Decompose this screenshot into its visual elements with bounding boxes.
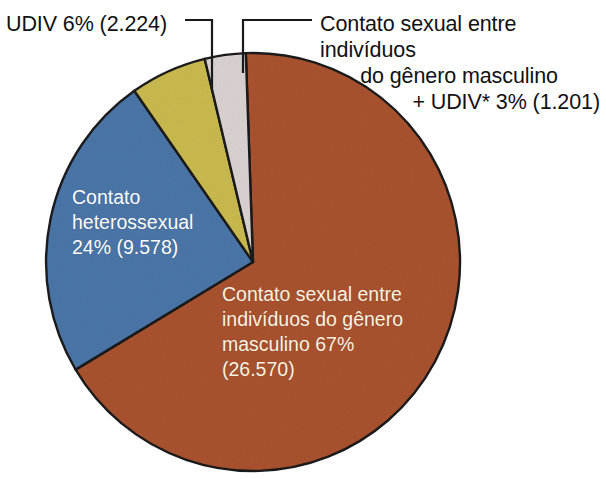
callout-label-msm-udiv: Contato sexual entre indivíduos do gêner… <box>320 11 604 115</box>
callout-label-msm-udiv-line1: Contato sexual entre indivíduos <box>320 11 604 63</box>
callout-label-msm-udiv-line3: + UDIV* 3% (1.201) <box>320 89 604 115</box>
slice-label-contato-heterossexual: Contato heterossexual 24% (9.578) <box>72 185 242 260</box>
callout-label-udiv: UDIV 6% (2.224) <box>6 11 167 37</box>
callout-label-msm-udiv-line2: do gênero masculino <box>320 63 604 89</box>
pie-chart-figure: UDIV 6% (2.224) Contato sexual entre ind… <box>0 0 606 479</box>
slice-label-contato-sexual-masculino: Contato sexual entre indivíduos do gêner… <box>222 282 432 382</box>
